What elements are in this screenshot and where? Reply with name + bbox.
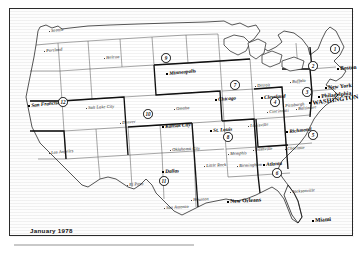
major-city-marker [312, 220, 314, 222]
reserve-bank-marker [166, 73, 168, 75]
reserve-bank-marker [263, 164, 265, 166]
district-badge-4[interactable]: 4 [270, 97, 280, 107]
us-map-outline [10, 9, 354, 237]
district-badge-6[interactable]: 6 [272, 168, 282, 178]
district-badge-2[interactable]: 2 [308, 61, 318, 71]
major-city-marker [318, 96, 320, 98]
district-badge-5[interactable]: 5 [308, 130, 318, 140]
reserve-bank-marker [261, 97, 263, 99]
major-city-marker [227, 201, 229, 203]
underline-rule [14, 244, 194, 246]
district-badge-1[interactable]: 1 [330, 44, 340, 54]
district-badge-7[interactable]: 7 [230, 80, 240, 90]
district-badge-3[interactable]: 3 [302, 87, 312, 97]
map-canvas [10, 9, 354, 237]
district-badge-8[interactable]: 8 [223, 132, 233, 142]
major-city-marker [337, 68, 339, 70]
reserve-bank-marker [162, 126, 164, 128]
district-badge-9[interactable]: 9 [161, 53, 171, 63]
major-city-marker [325, 87, 327, 89]
district-badge-10[interactable]: 10 [143, 109, 153, 119]
reserve-bank-marker [28, 105, 30, 107]
reserve-bank-marker [162, 171, 164, 173]
reserve-bank-marker [286, 131, 288, 133]
reserve-bank-marker [210, 130, 212, 132]
district-badge-12[interactable]: 12 [58, 97, 68, 107]
map-frame: SeattlePortlandHelenaSalt Lake CityDenve… [9, 8, 353, 236]
reserve-bank-marker [215, 99, 217, 101]
district-badge-11[interactable]: 11 [159, 176, 169, 186]
map-caption: January 1978 [30, 227, 73, 234]
capital-marker [309, 102, 311, 104]
